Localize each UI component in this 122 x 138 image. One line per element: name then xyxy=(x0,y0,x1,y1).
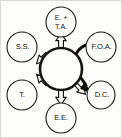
node-eta-label-line2: T.A. xyxy=(55,22,67,31)
node-t-label: T. xyxy=(19,90,25,99)
node-eta: E. + T.A. xyxy=(46,7,76,37)
node-dc: D.C. xyxy=(87,81,115,109)
node-t: T. xyxy=(7,80,37,110)
node-ss-label: S.S. xyxy=(16,42,30,51)
node-foa-label: F.O.A. xyxy=(91,42,111,51)
hub-node xyxy=(40,48,82,90)
node-ee: E.E. xyxy=(46,103,76,133)
hub-and-spoke-diagram: E. + T.A. F.O.A. D.C. E.E. T. S.S. xyxy=(0,0,122,138)
node-eta-label-line1: E. + xyxy=(55,13,67,22)
node-foa: F.O.A. xyxy=(86,32,116,62)
node-dc-label: D.C. xyxy=(95,90,110,99)
node-ss: S.S. xyxy=(7,32,37,62)
figure-root: E. + T.A. F.O.A. D.C. E.E. T. S.S. xyxy=(0,0,122,138)
node-ee-label: E.E. xyxy=(54,113,68,122)
